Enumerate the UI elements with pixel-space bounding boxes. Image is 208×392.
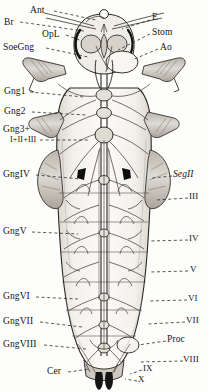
label-seg-vii: VII <box>186 316 199 325</box>
label-seg-v: V <box>190 265 197 274</box>
label-soegng: SoeGng <box>3 43 34 53</box>
label-gng2: Gng2 <box>4 107 26 117</box>
label-gng8: GngVIII <box>3 340 36 350</box>
label-seg-ix: IX <box>143 364 153 373</box>
figure-canvas: Br Ant OpL SoeGng Gng1 Gng2 Gng3+ I+II+I… <box>0 0 208 392</box>
label-br: Br <box>4 18 14 28</box>
label-gng1: Gng1 <box>4 87 26 97</box>
label-opl: OpL <box>42 30 60 40</box>
label-seg-vi: VI <box>188 294 198 303</box>
label-seg-iv: IV <box>189 234 199 243</box>
label-gng7: GngVII <box>3 317 33 327</box>
label-gng6: GngVI <box>3 292 30 302</box>
label-e: E <box>152 13 158 23</box>
label-gng3: Gng3+ <box>3 125 30 135</box>
label-ao: Ao <box>160 43 172 53</box>
label-seg-viii: VIII <box>183 355 199 364</box>
label-gng4: GngIV <box>3 170 30 180</box>
label-seg-x: X <box>138 375 145 384</box>
label-ant: Ant <box>30 6 45 16</box>
label-proc: Proc <box>167 335 185 345</box>
label-seg-ii: SegII <box>173 170 194 180</box>
label-gng3-sub: I+II+III <box>10 136 36 144</box>
label-cer: Cer <box>47 367 61 377</box>
label-stom: Stom <box>152 28 172 38</box>
label-gng5: GngV <box>3 227 27 237</box>
label-seg-iii: III <box>189 192 198 201</box>
